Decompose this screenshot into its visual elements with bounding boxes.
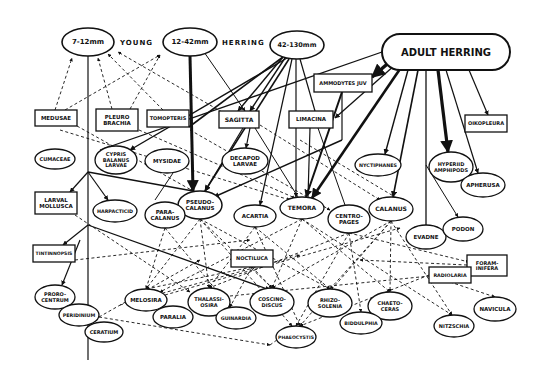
node-cumaceae: CUMACEAE bbox=[35, 149, 75, 169]
node-label: MELOSIRA bbox=[130, 297, 162, 303]
node-label: 42-130mm bbox=[278, 41, 317, 49]
node-n42_130: 42-130mm bbox=[270, 31, 324, 59]
node-label: TOMOPTERIS bbox=[150, 115, 187, 121]
node-label: TEMORA bbox=[288, 204, 317, 211]
node-label: TINTINNOPSIS bbox=[36, 251, 73, 256]
dashed-edge bbox=[130, 55, 160, 109]
dashed-edge bbox=[65, 55, 160, 110]
node-medusae: MEDUSAE bbox=[35, 110, 77, 126]
solid-edge bbox=[88, 172, 108, 200]
node-label: PHAEOCYSTIS bbox=[278, 335, 314, 340]
node-label: SOLENIA bbox=[318, 303, 342, 309]
node-label: CERATIUM bbox=[90, 329, 119, 335]
dashed-edge bbox=[272, 221, 391, 288]
node-label: MOLLUSCA bbox=[39, 203, 73, 209]
node-paralia: PARALIA bbox=[153, 306, 193, 328]
solid-edge bbox=[70, 172, 88, 192]
node-peridinium: PERIDINIUM bbox=[59, 304, 99, 326]
node-label: ACARTIA bbox=[242, 213, 269, 219]
node-label: APHERUSA bbox=[466, 182, 500, 188]
node-label: MYSIDAE bbox=[153, 158, 181, 164]
dashed-edge bbox=[360, 260, 467, 265]
node-label: CERAS bbox=[381, 306, 400, 312]
node-label: AMPHIPODS bbox=[434, 167, 469, 173]
dashed-edge bbox=[55, 58, 72, 110]
node-n7_12: 7-12mm bbox=[62, 28, 114, 56]
node-label: BIDDULPHIA bbox=[344, 321, 378, 326]
node-label: PERIDINIUM bbox=[63, 313, 96, 318]
node-n12_42: 12-42mm bbox=[163, 28, 217, 56]
dashed-edge bbox=[146, 219, 200, 289]
herring-food-web-diagram: 7-12mm12-42mm42-130mmADULT HERRINGAMMODY… bbox=[0, 0, 539, 369]
node-decapod: DECAPODLARVAE bbox=[222, 148, 268, 174]
node-cypris: CYPRISBALANUSLARVAE bbox=[95, 146, 137, 174]
solid-edge bbox=[318, 128, 345, 205]
node-label: EVADNE bbox=[414, 234, 439, 240]
node-nyctiphanes: NYCTIPHANES bbox=[355, 154, 401, 176]
node-foraminifera: FORAM-INIFERA bbox=[467, 255, 507, 276]
dashed-edge bbox=[390, 221, 391, 292]
node-label: CALANUS bbox=[375, 205, 407, 212]
node-label: CALANUS bbox=[185, 205, 214, 211]
node-label: NAVICULA bbox=[479, 306, 511, 312]
node-evadne: EVADNE bbox=[406, 225, 446, 249]
node-radiolaria: RADIOLARIA bbox=[429, 267, 471, 283]
dashed-edge bbox=[165, 228, 400, 295]
node-label: RADIOLARIA bbox=[433, 273, 466, 278]
node-label: GUINARDIA bbox=[221, 316, 252, 321]
node-sagitta: SAGITTA bbox=[219, 111, 259, 128]
dashed-edge bbox=[146, 228, 165, 289]
solid-edge bbox=[250, 58, 285, 111]
node-label: 12-42mm bbox=[172, 38, 209, 46]
node-label: 7-12mm bbox=[72, 38, 104, 46]
solid-edge bbox=[469, 70, 488, 115]
node-calanus: CALANUS bbox=[369, 197, 413, 221]
node-label: NOCTILUCA bbox=[236, 255, 268, 261]
node-label: OSIRA bbox=[200, 302, 218, 308]
node-navicula: NAVICULA bbox=[474, 297, 516, 321]
node-noctiluca: NOCTILUCA bbox=[231, 250, 273, 267]
node-label: BRACHIA bbox=[103, 120, 131, 126]
node-label: CALANUS bbox=[150, 215, 179, 221]
solid-edge bbox=[130, 58, 287, 150]
node-label: DISCUS bbox=[262, 302, 283, 308]
node-nitzschia: NITZSCHIA bbox=[434, 315, 474, 337]
node-label: AMMODYTES JUV bbox=[319, 80, 367, 86]
node-label: CUMACEAE bbox=[40, 156, 72, 162]
label-herring: HERRING bbox=[222, 39, 265, 47]
node-mysidae: MYSIDAE bbox=[145, 149, 189, 173]
label-young: YOUNG bbox=[119, 39, 153, 47]
node-adult: ADULT HERRING bbox=[382, 34, 510, 70]
node-label: PAGES bbox=[339, 219, 359, 225]
node-temora: TEMORA bbox=[280, 197, 324, 219]
node-oikopleura: OIKOPLEURA bbox=[465, 115, 507, 132]
solid-edge bbox=[63, 225, 88, 245]
solid-edge bbox=[438, 70, 448, 152]
node-label: LIMACINA bbox=[296, 116, 327, 122]
node-rhizosolenia: RHIZO-SOLENIA bbox=[308, 289, 352, 317]
node-ceratium: CERATIUM bbox=[85, 322, 123, 342]
dashed-edge bbox=[75, 240, 250, 260]
solid-edge bbox=[393, 70, 418, 197]
node-larval_mollusca: LARVALMOLLUSCA bbox=[35, 192, 77, 214]
nodes: 7-12mm12-42mm42-130mmADULT HERRINGAMMODY… bbox=[33, 28, 516, 348]
node-coscinodiscus: COSCINO-DISCUS bbox=[250, 288, 294, 316]
node-centropages: CENTRO-PAGES bbox=[328, 205, 370, 233]
node-label: HARPACTICID bbox=[97, 209, 133, 214]
node-tintinnopsis: TINTINNOPSIS bbox=[33, 245, 75, 262]
node-label: OIKOPLEURA bbox=[468, 120, 504, 126]
node-paracalanus: PARA-CALANUS bbox=[145, 202, 185, 228]
node-label: ADULT HERRING bbox=[401, 47, 491, 58]
node-label: INIFERA bbox=[476, 265, 499, 271]
node-limacina: LIMACINA bbox=[289, 111, 333, 128]
node-harpacticid: HARPACTICID bbox=[93, 200, 137, 222]
node-phaeocystis: PHAEOCYSTIS bbox=[276, 326, 316, 348]
node-tomopteris: TOMOPTERIS bbox=[147, 110, 189, 127]
solid-edge bbox=[300, 59, 315, 111]
node-pleuro: PLEUROBRACHIA bbox=[96, 109, 138, 131]
node-label: LARVAE bbox=[233, 161, 257, 167]
node-biddulphia: BIDDULPHIA bbox=[340, 312, 382, 334]
node-label: NITZSCHIA bbox=[439, 323, 469, 329]
node-acartia: ACARTIA bbox=[234, 205, 276, 227]
node-label: NYCTIPHANES bbox=[359, 163, 397, 168]
